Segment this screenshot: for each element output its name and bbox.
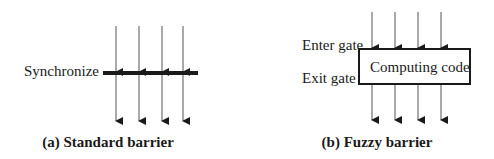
synchronize-label: Synchronize <box>24 63 99 79</box>
fuzzy-barrier-panel: Enter gate Exit gate Computing code (b) … <box>302 12 470 151</box>
outgoing-arrows <box>116 75 183 121</box>
caption-standard-barrier: (a) Standard barrier <box>42 134 174 151</box>
enter-gate-label: Enter gate <box>302 37 364 53</box>
exit-gate-label: Exit gate <box>302 70 356 86</box>
caption-fuzzy-barrier: (b) Fuzzy barrier <box>322 134 433 151</box>
barrier-diagram: Synchronize (a) Standard barrier Enter g… <box>0 0 494 159</box>
outgoing-arrows <box>372 85 441 120</box>
standard-barrier-panel: Synchronize (a) Standard barrier <box>24 26 198 151</box>
computing-code-label: Computing code <box>370 59 470 75</box>
synchronize-bar <box>103 71 198 75</box>
incoming-arrows <box>372 12 441 48</box>
incoming-arrows <box>116 26 183 72</box>
